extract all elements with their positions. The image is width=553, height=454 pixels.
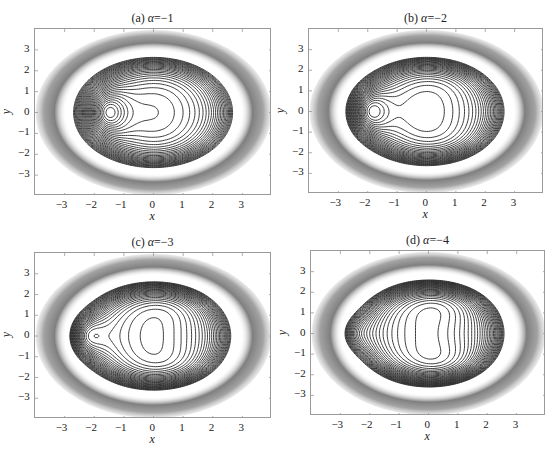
y-tick-label: 1 bbox=[24, 85, 30, 96]
x-tick-label: −2 bbox=[361, 419, 373, 430]
y-tick-label: 0 bbox=[24, 329, 30, 340]
y-tick-label: −3 bbox=[292, 166, 304, 177]
x-tick-label: −2 bbox=[359, 197, 371, 208]
contour-plot bbox=[309, 29, 543, 193]
y-tick-label: −2 bbox=[18, 371, 30, 382]
x-tick-label: 1 bbox=[179, 199, 185, 210]
y-tick-label: 1 bbox=[24, 308, 30, 319]
x-tick-label: −2 bbox=[85, 422, 97, 433]
y-tick-label: 0 bbox=[298, 105, 304, 116]
contour-envelope bbox=[310, 30, 543, 193]
y-tick-label: 3 bbox=[298, 43, 304, 54]
y-tick-label: −1 bbox=[294, 347, 306, 358]
y-tick-label: 3 bbox=[24, 267, 30, 278]
x-tick-label: 3 bbox=[511, 197, 517, 208]
plot-area bbox=[34, 252, 271, 418]
plot-area bbox=[308, 28, 543, 193]
y-tick-label: 0 bbox=[24, 106, 30, 117]
y-tick-label: 2 bbox=[298, 63, 304, 74]
x-tick-label: 2 bbox=[483, 419, 489, 430]
x-tick-label: 1 bbox=[179, 422, 185, 433]
y-tick-label: 3 bbox=[300, 265, 306, 276]
x-axis-label: x bbox=[423, 207, 428, 222]
y-axis-label: y bbox=[0, 108, 14, 113]
contour-plot bbox=[35, 29, 271, 195]
y-tick-label: 2 bbox=[24, 64, 30, 75]
x-tick-label: 1 bbox=[454, 419, 460, 430]
x-tick-label: −3 bbox=[331, 419, 343, 430]
x-tick-label: 3 bbox=[238, 422, 244, 433]
y-tick-label: −2 bbox=[292, 146, 304, 157]
y-tick-label: −3 bbox=[18, 391, 30, 402]
x-tick-label: 3 bbox=[513, 419, 519, 430]
y-tick-label: 1 bbox=[300, 306, 306, 317]
title-value: =−2 bbox=[427, 11, 447, 25]
x-axis-label: x bbox=[425, 429, 430, 444]
subplot-title: (d) α=−4 bbox=[310, 233, 545, 248]
y-axis-label: y bbox=[0, 332, 14, 337]
subplot-title: (c) α=−3 bbox=[34, 235, 271, 250]
x-tick-label: 2 bbox=[481, 197, 487, 208]
subplot-title: (a) α=−1 bbox=[34, 11, 271, 26]
y-tick-label: 2 bbox=[300, 285, 306, 296]
y-tick-label: −2 bbox=[18, 147, 30, 158]
y-axis-label: y bbox=[275, 329, 290, 334]
plot-area bbox=[34, 28, 271, 195]
title-value: =−1 bbox=[154, 11, 174, 25]
y-tick-label: 3 bbox=[24, 43, 30, 54]
x-tick-label: −3 bbox=[329, 197, 341, 208]
subplot-title: (b) α=−2 bbox=[308, 11, 543, 26]
title-prefix: (a) bbox=[131, 11, 147, 25]
x-tick-label: −1 bbox=[115, 199, 127, 210]
plot-area bbox=[310, 250, 545, 415]
y-tick-label: −2 bbox=[294, 368, 306, 379]
x-tick-label: 1 bbox=[452, 197, 458, 208]
x-axis-label: x bbox=[150, 432, 155, 447]
y-tick-label: 0 bbox=[300, 327, 306, 338]
x-tick-label: −3 bbox=[56, 199, 68, 210]
x-tick-label: −1 bbox=[388, 197, 400, 208]
y-tick-label: −3 bbox=[294, 388, 306, 399]
title-value: =−3 bbox=[154, 235, 174, 249]
contour-plot bbox=[311, 251, 545, 415]
y-axis-label: y bbox=[273, 107, 288, 112]
title-prefix: (d) bbox=[406, 233, 423, 247]
x-tick-label: −1 bbox=[390, 419, 402, 430]
y-tick-label: −1 bbox=[18, 126, 30, 137]
x-tick-label: −1 bbox=[115, 422, 127, 433]
contour-plot bbox=[35, 253, 271, 418]
x-tick-label: −2 bbox=[85, 199, 97, 210]
x-tick-label: 2 bbox=[209, 199, 215, 210]
contour-envelope bbox=[36, 30, 271, 195]
title-prefix: (b) bbox=[404, 11, 421, 25]
y-tick-label: −3 bbox=[18, 168, 30, 179]
x-tick-label: 2 bbox=[209, 422, 215, 433]
y-tick-label: 1 bbox=[298, 84, 304, 95]
y-tick-label: −1 bbox=[292, 125, 304, 136]
y-tick-label: 2 bbox=[24, 288, 30, 299]
x-axis-label: x bbox=[150, 209, 155, 224]
title-prefix: (c) bbox=[131, 235, 147, 249]
x-tick-label: −3 bbox=[56, 422, 68, 433]
y-tick-label: −1 bbox=[18, 350, 30, 361]
title-value: =−4 bbox=[429, 233, 449, 247]
x-tick-label: 3 bbox=[238, 199, 244, 210]
